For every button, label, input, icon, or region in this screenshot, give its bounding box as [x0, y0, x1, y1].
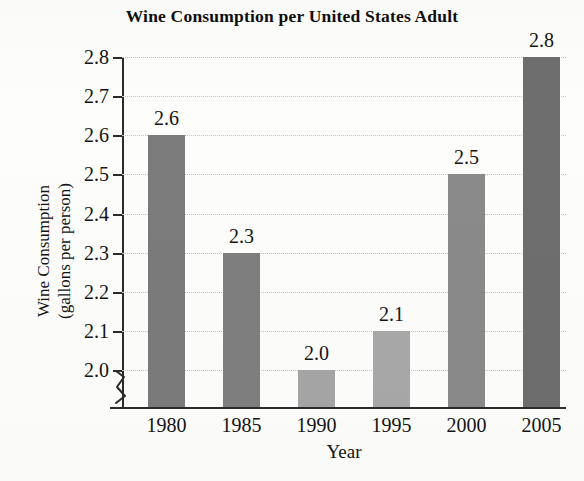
- x-axis-tick-label: 2005: [522, 414, 562, 437]
- y-axis-title: Wine Consumption (gallons per person): [33, 101, 75, 401]
- gridline: [122, 370, 566, 371]
- page-title: Wine Consumption per United States Adult: [0, 6, 584, 27]
- y-axis-tick: [113, 135, 122, 137]
- bar[interactable]: [523, 57, 560, 407]
- y-axis-tick: [113, 292, 122, 294]
- y-axis-tick: [113, 96, 122, 98]
- gridline: [122, 292, 566, 293]
- y-axis-tick-label: 2.7: [84, 85, 109, 108]
- y-axis-tick-label: 2.6: [84, 124, 109, 147]
- y-axis-tick-label: 2.8: [84, 46, 109, 69]
- bar-value-label: 2.0: [304, 342, 329, 365]
- gridline: [122, 135, 566, 136]
- bar[interactable]: [223, 253, 260, 407]
- chart-page: Wine Consumption per United States Adult…: [0, 0, 584, 481]
- gridline: [122, 57, 566, 58]
- gridline: [122, 253, 566, 254]
- x-axis-tick-label: 1980: [147, 414, 187, 437]
- y-axis-tick: [113, 370, 122, 372]
- y-axis-tick-label: 2.2: [84, 280, 109, 303]
- y-axis-title-line-2: (gallons per person): [54, 101, 75, 401]
- y-axis-tick-label: 2.0: [84, 359, 109, 382]
- y-axis-tick: [113, 214, 122, 216]
- x-axis-tick-label: 1985: [222, 414, 262, 437]
- bar-value-label: 2.8: [529, 29, 554, 52]
- x-axis-title: Year: [122, 441, 566, 463]
- gridline: [122, 96, 566, 97]
- y-axis-tick-label: 2.4: [84, 202, 109, 225]
- gridline: [122, 174, 566, 175]
- y-axis-tick: [113, 57, 122, 59]
- y-axis-tick-label: 2.5: [84, 163, 109, 186]
- bar-value-label: 2.3: [229, 225, 254, 248]
- y-axis-line: [122, 57, 124, 407]
- x-axis-line: [110, 407, 566, 409]
- bar-value-label: 2.6: [154, 107, 179, 130]
- x-axis-tick-label: 2000: [447, 414, 487, 437]
- axis-break-icon: [115, 370, 131, 404]
- y-axis-tick-label: 2.1: [84, 319, 109, 342]
- y-axis-tick: [113, 253, 122, 255]
- y-axis-tick-label: 2.3: [84, 241, 109, 264]
- gridline: [122, 214, 566, 215]
- y-axis-tick: [113, 331, 122, 333]
- bar-value-label: 2.5: [454, 146, 479, 169]
- y-axis-title-line-1: Wine Consumption: [33, 101, 54, 401]
- plot-area: 2.02.12.22.32.42.52.62.72.8 2.62.32.02.1…: [122, 40, 566, 407]
- bar-value-label: 2.1: [379, 303, 404, 326]
- x-axis-tick-label: 1990: [297, 414, 337, 437]
- bar[interactable]: [148, 135, 185, 407]
- bar[interactable]: [298, 370, 335, 407]
- gridline: [122, 331, 566, 332]
- bar[interactable]: [373, 331, 410, 407]
- x-axis-tick-label: 1995: [372, 414, 412, 437]
- bar[interactable]: [448, 174, 485, 407]
- y-axis-tick: [113, 174, 122, 176]
